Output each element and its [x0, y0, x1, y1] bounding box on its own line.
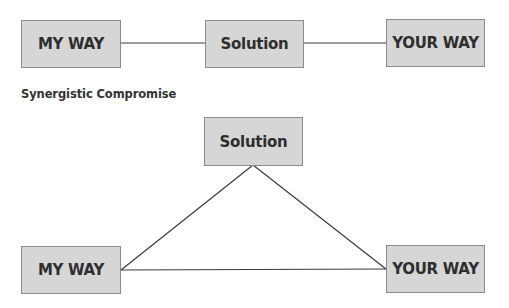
bottom-your-way-box: YOUR WAY	[386, 245, 485, 293]
caption-synergistic-compromise: Synergistic Compromise	[21, 87, 176, 101]
bottom-my-way-box: MY WAY	[21, 246, 121, 294]
triangle-edge-right	[253, 165, 386, 269]
bottom-solution-label: Solution	[220, 133, 288, 151]
bottom-my-way-label: MY WAY	[38, 261, 104, 279]
bottom-solution-box: Solution	[204, 117, 303, 166]
bottom-your-way-label: YOUR WAY	[392, 260, 479, 278]
top-your-way-label: YOUR WAY	[392, 34, 479, 52]
triangle-edge-base	[121, 269, 386, 270]
top-your-way-box: YOUR WAY	[386, 19, 485, 67]
top-solution-label: Solution	[221, 35, 289, 53]
top-my-way-box: MY WAY	[21, 20, 121, 68]
triangle-edge-left	[121, 165, 253, 270]
top-my-way-label: MY WAY	[38, 35, 104, 53]
top-solution-box: Solution	[205, 20, 304, 68]
